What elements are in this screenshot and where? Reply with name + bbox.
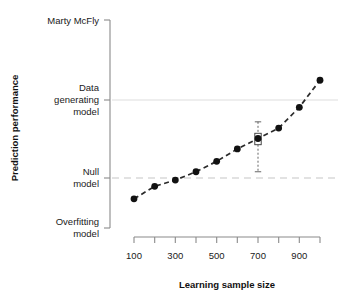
x-tick-label-100: 100	[126, 250, 142, 261]
x-tick-label-300: 300	[167, 250, 183, 261]
data-point-600	[234, 145, 241, 152]
data-point-100	[131, 195, 138, 202]
x-tick-label-700: 700	[250, 250, 266, 261]
y-tick-label-marty: Marty McFly	[47, 15, 99, 26]
y-tick-label-null-model-line2: model	[73, 178, 99, 189]
y-tick-label-data-generating-model-line3: model	[73, 106, 99, 117]
data-point-1000	[317, 77, 324, 84]
data-point-400	[193, 168, 200, 175]
y-tick-label-overfitting-model-line2: model	[73, 228, 99, 239]
y-tick-label-overfitting-model-line1: Overfitting	[56, 216, 99, 227]
chart-root: Marty McFly Data generating model Null m…	[0, 0, 342, 304]
data-point-500	[213, 158, 220, 165]
data-point-200	[151, 183, 158, 190]
x-tick-label-900: 900	[291, 250, 307, 261]
x-tick-label-500: 500	[209, 250, 225, 261]
prediction-performance-chart: Marty McFly Data generating model Null m…	[0, 0, 342, 304]
data-point-800	[275, 125, 282, 132]
y-axis-title: Prediction performance	[9, 75, 20, 182]
data-point-300	[172, 177, 179, 184]
x-axis-title: Learning sample size	[179, 279, 275, 290]
y-tick-label-data-generating-model-line2: generating	[54, 94, 99, 105]
y-tick-label-null-model-line1: Null	[83, 166, 99, 177]
data-point-900	[296, 104, 303, 111]
y-tick-label-data-generating-model-line1: Data	[79, 82, 100, 93]
data-point-700	[255, 135, 262, 142]
